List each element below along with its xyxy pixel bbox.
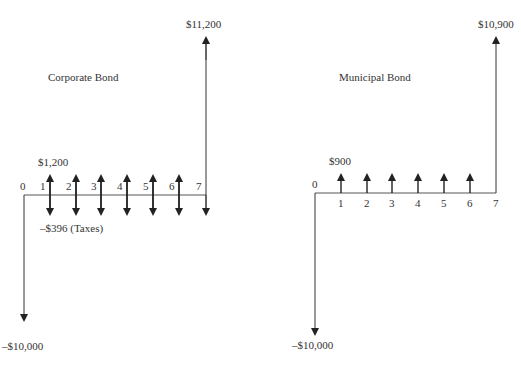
year-label: 3 [91,180,97,192]
year-label: 5 [441,197,447,209]
year-label: 1 [40,180,46,192]
corporate-final-label: $11,200 [186,18,221,30]
year-label: 2 [66,180,72,192]
year-label: 1 [338,197,344,209]
year-label: 6 [169,180,175,192]
coupon-arrows [341,177,470,193]
municipal-initial-label: –$10,000 [292,339,333,351]
year-label: 7 [493,197,499,209]
year-label: 5 [143,180,149,192]
year-label: 4 [415,197,421,209]
corporate-initial-label: –$10,000 [2,340,43,352]
year-label: 4 [117,180,123,192]
year-label: 7 [196,180,202,192]
municipal-diagram [315,40,496,332]
year-label: 0 [312,178,318,190]
year-label: 3 [389,197,395,209]
municipal-final-label: $10,900 [478,18,514,30]
corporate-coupon-label: $1,200 [38,156,68,168]
year-label: 2 [364,197,370,209]
corporate-title: Corporate Bond [48,71,119,83]
cash-flow-diagrams [0,0,521,366]
year-label: 0 [20,180,26,192]
corporate-tax-label: –$396 (Taxes) [40,222,103,234]
year-label: 6 [467,197,473,209]
municipal-coupon-label: $900 [329,155,351,167]
municipal-title: Municipal Bond [339,71,411,83]
